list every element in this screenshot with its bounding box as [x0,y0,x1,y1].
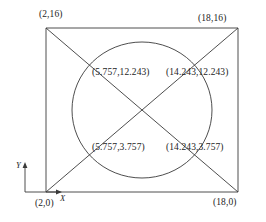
label-intersection-lower-left: (5.757,3.757) [92,143,145,153]
label-intersection-upper-left: (5.757,12.243) [92,68,150,78]
y-axis-label: Y [16,161,21,170]
label-intersection-lower-right: (14.243,3.757) [166,143,224,153]
figure-canvas [0,0,266,222]
label-square-corner-bottom-right: (18,0) [213,198,237,208]
label-square-corner-bottom-left: (2,0) [35,199,54,209]
geometry-figure: (2,16) (18,16) (2,0) (18,0) (5.757,12.24… [0,0,266,222]
y-axis-arrowhead-icon [23,162,28,168]
label-square-corner-top-right: (18,16) [198,14,226,24]
label-square-corner-top-left: (2,16) [39,10,63,20]
label-intersection-upper-right: (14.243,12.243) [166,68,228,78]
x-axis-label: X [60,194,65,203]
